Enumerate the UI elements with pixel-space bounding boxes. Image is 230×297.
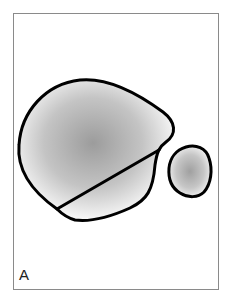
panel-label: A — [19, 266, 29, 283]
diagram-canvas — [0, 0, 230, 297]
large-lobe-shape — [19, 80, 174, 221]
small-lobe-shape — [169, 146, 211, 197]
